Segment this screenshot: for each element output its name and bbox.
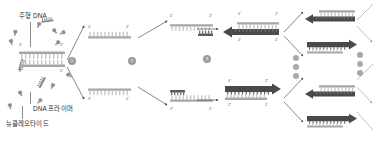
arrow-cycle-5 (357, 110, 375, 132)
nucleotide-icon (36, 22, 41, 28)
annealed-upper-right-end: 3' (209, 13, 212, 18)
extended-upper-top-right: 3' (275, 11, 278, 16)
arrow-split-1 (283, 8, 307, 34)
step-badge-1[interactable]: 1 (68, 57, 76, 65)
repeat-dot-left-3 (293, 73, 299, 79)
nucleotide-icon (9, 39, 14, 45)
repeat-dot-right-1 (357, 52, 363, 58)
arrow-cycle-1 (357, 2, 375, 22)
nucleotide-icon (50, 83, 55, 89)
product-4 (305, 114, 357, 132)
repeat-dot-left-1 (293, 55, 299, 61)
extended-lower-top-left: 5' (228, 78, 231, 83)
dna-primer-icon (37, 76, 47, 89)
bound-primer-icon (170, 90, 185, 95)
repeat-dot-right-2 (357, 61, 363, 67)
pcr-diagram-canvas: 주형 DNA DNA 프라이머 뉴클레오타이드 (0, 0, 375, 141)
new-strand-arrow-left (223, 26, 279, 37)
extended-upper (223, 18, 281, 40)
annealed-upper-left-end: 5' (170, 13, 173, 18)
single-strand-upper (88, 31, 132, 41)
repeat-dot-left-2 (293, 64, 299, 70)
repeat-dot-right-3 (357, 70, 363, 76)
arrow-split-4 (283, 100, 307, 126)
step-badge-2[interactable]: 2 (128, 57, 136, 65)
single-strand-lower (88, 86, 132, 96)
arrow-cycle-2 (357, 24, 375, 46)
nucleotide-icon (59, 30, 65, 36)
annealed-lower-left-end: 3' (170, 106, 173, 111)
arrow-extend-down (196, 95, 222, 105)
extended-lower-top-right: 3' (265, 78, 268, 83)
nucleotide-icon (18, 91, 23, 97)
arrow-denature-down (66, 65, 88, 105)
arrow-anneal-down (137, 85, 171, 109)
lower-strand-left-end: 3' (88, 96, 91, 101)
upper-strand-right-end: 3' (126, 24, 129, 29)
duplex-bottom-right-end: 5' (60, 68, 63, 73)
product-2 (305, 40, 357, 58)
lower-strand-right-end: 5' (126, 96, 129, 101)
duplex-top-left-end: 5' (19, 42, 22, 47)
extended-lower-bottom-left: 3' (228, 102, 231, 107)
upper-strand-left-end: 5' (88, 24, 91, 29)
nucleotide-icon (37, 98, 43, 104)
dna-primer-icon (41, 17, 53, 23)
nucleotide-icon (8, 103, 12, 109)
extended-lower-bottom-right: 5' (265, 102, 268, 107)
product-1 (305, 8, 357, 26)
extended-upper-bottom-left: 3' (238, 37, 241, 42)
product-3 (305, 83, 357, 101)
annealed-lower-right-end: 5' (209, 106, 212, 111)
extended-upper-bottom-right: 5' (275, 37, 278, 42)
step-badge-3[interactable]: 3 (203, 55, 211, 63)
nucleotide-icon (52, 28, 58, 34)
arrow-denature-up (66, 22, 88, 62)
arrow-anneal-up (137, 18, 171, 40)
nucleotide-icon (13, 30, 17, 36)
extended-upper-top-left: 5' (238, 11, 241, 16)
duplex-bottom-left-end: 3' (19, 68, 22, 73)
extended-lower (223, 84, 281, 106)
duplex-top-right-end: 3' (60, 42, 63, 47)
arrow-extend-up (196, 24, 222, 34)
arrow-cycle-4 (357, 85, 375, 107)
new-strand-arrow-right (225, 84, 281, 95)
